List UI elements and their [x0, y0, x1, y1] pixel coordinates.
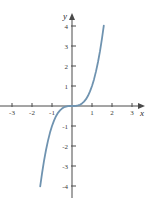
y-tick-label: 3: [65, 43, 69, 51]
y-tick-label: -3: [62, 163, 68, 171]
y-tick-label: 2: [65, 63, 69, 71]
y-tick-label: -4: [62, 183, 68, 191]
x-tick-label: 3: [130, 109, 134, 117]
x-axis-label: x: [139, 108, 144, 118]
y-tick-label: -1: [62, 123, 68, 131]
y-tick-label: -2: [62, 143, 68, 151]
x-tick-label: 1: [90, 109, 94, 117]
x-tick-label: -2: [29, 109, 35, 117]
plot-area: -3-2-1123-4-3-2-11234 xy: [0, 0, 165, 206]
x-tick-label: -3: [9, 109, 15, 117]
y-tick-label: 1: [65, 83, 69, 91]
y-axis-label: y: [62, 11, 67, 21]
cubic-function-graph-figure: -3-2-1123-4-3-2-11234 xy: [0, 0, 165, 206]
x-tick-label: -1: [49, 109, 55, 117]
y-axis-arrow-icon: [69, 13, 75, 20]
x-tick-label: 2: [110, 109, 114, 117]
y-tick-label: 4: [65, 23, 69, 31]
